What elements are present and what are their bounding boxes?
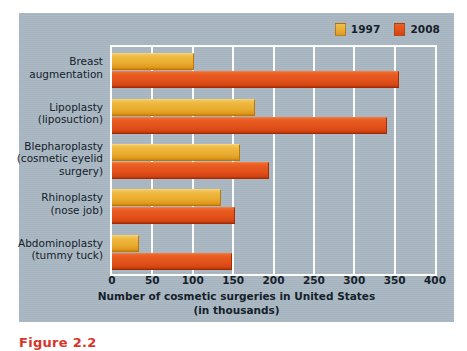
x-tick-0: 0 — [108, 275, 115, 286]
bar-group — [112, 229, 435, 274]
bar-2008 — [112, 117, 387, 134]
bar-2008 — [112, 71, 399, 88]
legend-swatch-1997-icon — [335, 23, 346, 36]
bar-group — [112, 138, 435, 183]
bar-1997 — [112, 235, 139, 252]
plot-frame — [110, 45, 437, 276]
category-axis-labels: Breast augmentationLipoplasty (liposucti… — [19, 45, 107, 272]
bar-group — [112, 92, 435, 137]
x-tick-150: 150 — [222, 275, 244, 286]
legend-label-2008: 2008 — [410, 24, 440, 35]
legend-entry-2008: 2008 — [394, 23, 440, 36]
bar-2008 — [112, 162, 269, 179]
x-tick-350: 350 — [384, 275, 406, 286]
x-tick-250: 250 — [303, 275, 325, 286]
bar-2008 — [112, 253, 232, 270]
x-tick-400: 400 — [424, 275, 446, 286]
category-label: Rhinoplasty (nose job) — [15, 191, 103, 216]
x-tick-200: 200 — [263, 275, 285, 286]
bar-group — [112, 47, 435, 92]
bar-1997 — [112, 189, 221, 206]
x-axis-title: Number of cosmetic surgeries in United S… — [19, 290, 454, 317]
x-axis-tick-labels: 050100150200250300350400 — [110, 275, 437, 289]
figure-caption: Figure 2.2 — [19, 336, 97, 351]
x-tick-100: 100 — [182, 275, 204, 286]
bar-1997 — [112, 99, 255, 116]
category-label: Lipoplasty (liposuction) — [15, 101, 103, 126]
figure-panel: 1997 2008 Breast augmentationLipoplasty … — [19, 13, 454, 322]
legend-entry-1997: 1997 — [335, 23, 381, 36]
category-label: Breast augmentation — [15, 55, 103, 80]
legend-label-1997: 1997 — [351, 24, 381, 35]
bar-1997 — [112, 144, 240, 161]
legend-swatch-2008-icon — [394, 23, 405, 36]
bar-2008 — [112, 207, 235, 224]
bar-1997 — [112, 53, 194, 70]
plot-area — [112, 47, 435, 274]
category-label: Blepharoplasty (cosmetic eyelid surgery) — [15, 140, 103, 178]
bar-group — [112, 183, 435, 228]
category-label: Abdominoplasty (tummy tuck) — [15, 237, 103, 262]
x-tick-300: 300 — [343, 275, 365, 286]
chart-legend: 1997 2008 — [335, 23, 440, 36]
x-tick-50: 50 — [145, 275, 160, 286]
